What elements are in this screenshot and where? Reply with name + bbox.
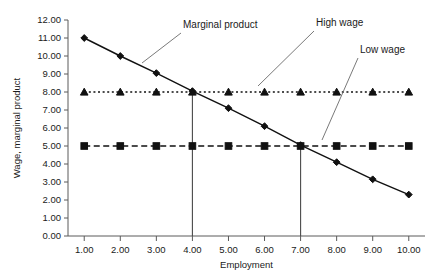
data-point (153, 143, 160, 150)
reference-lines (192, 92, 300, 236)
x-axis: 1.002.003.004.005.006.007.008.009.0010.0… (68, 236, 425, 270)
data-point (405, 191, 412, 198)
x-tick-label: 7.00 (291, 244, 310, 255)
data-point (333, 159, 340, 166)
y-tick-label: 8.00 (43, 86, 62, 97)
annotation-label-low-wage: Low wage (360, 44, 405, 55)
y-tick-label: 11.00 (38, 32, 61, 43)
x-tick-label: 3.00 (147, 244, 166, 255)
x-tick-label: 6.00 (255, 244, 274, 255)
y-tick-label: 0.00 (43, 230, 62, 241)
y-tick-label: 7.00 (43, 104, 62, 115)
data-point (297, 143, 304, 150)
data-point (261, 123, 268, 130)
y-tick-label: 2.00 (43, 194, 62, 205)
data-point (369, 176, 376, 183)
data-point (225, 143, 232, 150)
data-point (297, 88, 305, 95)
data-point (81, 35, 88, 42)
annotation-leader-1 (258, 31, 314, 86)
y-tick-label: 6.00 (43, 122, 62, 133)
annotation-label-high-wage: High wage (316, 17, 364, 28)
data-point (405, 143, 412, 150)
data-point (261, 143, 268, 150)
y-tick-label: 4.00 (43, 158, 62, 169)
data-point (117, 53, 124, 60)
x-tick-label: 5.00 (219, 244, 238, 255)
data-point (81, 143, 88, 150)
data-point (153, 70, 160, 77)
data-point (189, 143, 196, 150)
data-point (333, 143, 340, 150)
data-point (117, 143, 124, 150)
data-point (261, 88, 269, 95)
series-marginal-product (81, 35, 412, 198)
annotation-leader-2 (322, 58, 358, 140)
data-point (225, 105, 232, 112)
y-axis: 0.001.002.003.004.005.006.007.008.009.00… (11, 14, 68, 241)
x-tick-label: 1.00 (75, 244, 94, 255)
y-tick-label: 3.00 (43, 176, 62, 187)
y-tick-label: 10.00 (37, 50, 61, 61)
x-axis-title: Employment (220, 259, 273, 270)
annotations: Marginal productHigh wageLow wage (142, 17, 405, 140)
y-tick-label: 5.00 (43, 140, 62, 151)
series-high-wage (80, 88, 412, 95)
annotation-leader-0 (142, 33, 181, 63)
x-tick-label: 2.00 (111, 244, 130, 255)
data-point (405, 88, 413, 95)
annotation-label-marginal-product: Marginal product (183, 19, 258, 30)
y-tick-label: 12.00 (37, 14, 61, 25)
x-tick-label: 10.00 (397, 244, 421, 255)
x-tick-label: 9.00 (363, 244, 382, 255)
wage-marginal-product-chart: 0.001.002.003.004.005.006.007.008.009.00… (0, 0, 446, 280)
data-point (369, 143, 376, 150)
series-low-wage (81, 143, 412, 150)
x-tick-label: 8.00 (327, 244, 346, 255)
y-tick-label: 1.00 (43, 212, 62, 223)
y-tick-label: 9.00 (43, 68, 62, 79)
data-point (225, 88, 233, 95)
y-axis-title: Wage, marginal product (11, 77, 22, 178)
x-tick-label: 4.00 (183, 244, 202, 255)
data-point (80, 88, 88, 95)
series-line-0 (84, 38, 409, 195)
chart-figure: 0.001.002.003.004.005.006.007.008.009.00… (0, 0, 446, 280)
